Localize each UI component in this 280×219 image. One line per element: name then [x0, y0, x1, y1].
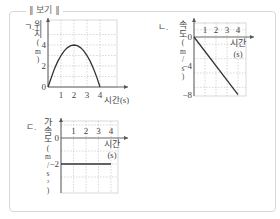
- y-axis-label-char: ): [182, 72, 185, 81]
- x-axis-unit: (s): [108, 150, 117, 160]
- y-axis-label-char: ): [47, 186, 50, 195]
- x-tick-label: 1: [71, 126, 76, 136]
- y-tick-label: 4: [42, 40, 47, 50]
- y-axis-arrow-icon: [59, 118, 63, 122]
- y-axis-label-char: 도: [179, 29, 187, 39]
- box-title: ∥ 보기 ∥: [26, 3, 63, 16]
- x-axis-arrow-icon: [124, 85, 128, 89]
- x-tick-label: 3: [96, 126, 101, 136]
- y-axis-label-char: 도: [44, 134, 52, 144]
- x-axis-arrow-icon: [124, 136, 128, 140]
- x-axis-label: 시간(s): [104, 95, 129, 105]
- item-label: ㄷ.: [26, 122, 36, 132]
- item-label: ㄴ.: [158, 22, 168, 32]
- x-tick-label: 4: [98, 90, 103, 100]
- x-tick-label: 1: [203, 25, 208, 35]
- acceleration-time-graph: 12340−2ㄷ.가속도(m/s²)시간(s): [18, 118, 148, 203]
- y-tick-label: 0: [42, 82, 47, 92]
- x-tick-label: 2: [72, 90, 77, 100]
- y-tick-label: 2: [42, 61, 47, 71]
- y-tick-label: −8: [182, 90, 192, 100]
- x-tick-label: 3: [85, 90, 90, 100]
- x-axis-label: 시간: [230, 38, 246, 48]
- item-label: ㄱ.: [24, 22, 34, 32]
- x-axis-label: 시간: [104, 139, 120, 149]
- x-axis-arrow-icon: [250, 35, 254, 39]
- x-tick-label: 4: [236, 25, 241, 35]
- x-tick-label: 3: [225, 25, 230, 35]
- position-time-graph: 1234024ㄱ.위치(m)시간(s): [18, 18, 138, 108]
- y-axis-label-char: ): [37, 55, 40, 64]
- x-tick-label: 1: [59, 90, 64, 100]
- plot-frame: [48, 20, 117, 87]
- y-axis-label-char: 치: [34, 28, 42, 39]
- x-axis-unit: (s): [234, 49, 243, 59]
- x-tick-label: 2: [214, 25, 219, 35]
- x-tick-label: 2: [84, 126, 89, 136]
- y-axis-arrow-icon: [192, 18, 196, 22]
- x-tick-label: 4: [109, 126, 114, 136]
- y-tick-label: 0: [55, 133, 60, 143]
- velocity-time-graph: 12340−4−8ㄴ.속도(m/s)시간(s): [150, 18, 275, 108]
- y-tick-label: 0: [188, 32, 193, 42]
